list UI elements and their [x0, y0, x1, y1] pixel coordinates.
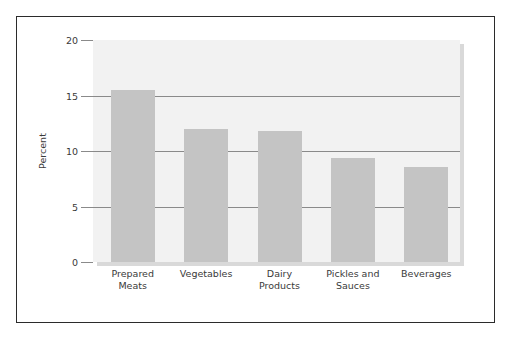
bar — [184, 129, 228, 262]
bar-chart: 05101520 Percent Prepared MeatsVegetable… — [0, 0, 510, 340]
plot-panel — [93, 40, 460, 262]
y-axis-tick-label: 20 — [54, 35, 78, 46]
y-axis-tick-label: 15 — [54, 90, 78, 101]
y-axis-tick-label: 5 — [54, 201, 78, 212]
bar — [404, 167, 448, 262]
y-axis-label: Percent — [37, 133, 48, 169]
bar — [331, 158, 375, 262]
bar — [258, 131, 302, 262]
bar — [111, 90, 155, 262]
y-axis-tick-mark — [81, 262, 93, 263]
y-axis-tick-mark — [81, 207, 93, 208]
y-axis-tick-mark — [81, 151, 93, 152]
y-axis-tick-label: 0 — [54, 257, 78, 268]
y-axis-tick-label: 10 — [54, 146, 78, 157]
y-axis-tick-mark — [81, 96, 93, 97]
figure-canvas: 05101520 Percent Prepared MeatsVegetable… — [0, 0, 510, 340]
y-axis-tick-mark — [81, 40, 93, 41]
x-axis-tick-label: Beverages — [383, 268, 469, 280]
